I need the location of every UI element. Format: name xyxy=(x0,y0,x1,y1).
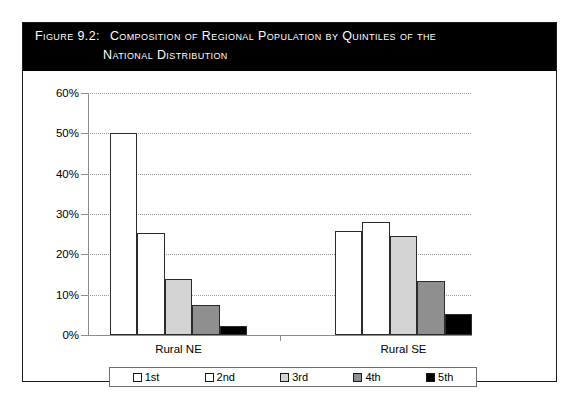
gridline xyxy=(88,133,471,134)
bar-rural-se-4th xyxy=(417,281,444,335)
y-axis-tick xyxy=(81,295,88,296)
bar-rural-ne-3rd xyxy=(165,279,192,335)
legend-label: 3rd xyxy=(292,371,308,383)
legend-item-3rd: 3rd xyxy=(280,371,308,383)
legend-item-1st: 1st xyxy=(133,371,160,383)
y-axis-tick xyxy=(81,335,88,336)
gridline xyxy=(88,93,471,94)
legend-swatch-4th xyxy=(353,373,362,382)
legend-swatch-3rd xyxy=(280,373,289,382)
y-axis-tick xyxy=(81,174,88,175)
legend-label: 4th xyxy=(365,371,380,383)
legend-swatch-1st xyxy=(133,373,142,382)
legend-label: 1st xyxy=(145,371,160,383)
figure-number-label: Figure 9.2: xyxy=(35,29,100,43)
bar-rural-ne-1st xyxy=(110,133,137,335)
plot-area xyxy=(88,93,471,335)
x-axis-label-rural-se: Rural SE xyxy=(380,343,426,355)
y-axis-tick-label: 0% xyxy=(31,329,79,341)
y-axis-tick xyxy=(81,133,88,134)
legend-label: 5th xyxy=(438,371,453,383)
legend-label: 2nd xyxy=(217,371,235,383)
bar-rural-ne-2nd xyxy=(137,233,164,335)
x-axis-tick xyxy=(280,335,281,341)
legend-item-5th: 5th xyxy=(426,371,453,383)
x-axis-label-rural-ne: Rural NE xyxy=(155,343,202,355)
y-axis-tick-label: 60% xyxy=(31,87,79,99)
bar-rural-se-1st xyxy=(335,231,362,335)
chart-plot-container: 0%10%20%30%40%50%60% Rural NERural SE 1s… xyxy=(23,71,556,383)
y-axis-tick xyxy=(81,93,88,94)
bar-rural-se-2nd xyxy=(362,222,389,335)
bar-rural-ne-5th xyxy=(220,326,247,335)
figure-title-text-line-2: National Distribution xyxy=(103,48,228,62)
legend-item-4th: 4th xyxy=(353,371,380,383)
y-axis-tick xyxy=(81,214,88,215)
figure-frame: Figure 9.2: Composition of Regional Popu… xyxy=(22,22,557,382)
figure-title-bar: Figure 9.2: Composition of Regional Popu… xyxy=(23,23,556,71)
y-axis-tick-label: 30% xyxy=(31,208,79,220)
y-axis-labels: 0%10%20%30%40%50%60% xyxy=(23,71,79,383)
legend-swatch-2nd xyxy=(205,373,214,382)
y-axis-tick-label: 50% xyxy=(31,127,79,139)
chart-legend: 1st2nd3rd4th5th xyxy=(109,367,477,387)
title-line-1: Figure 9.2: Composition of Regional Popu… xyxy=(35,29,546,43)
bar-rural-se-5th xyxy=(445,314,472,335)
y-axis-tick-label: 20% xyxy=(31,248,79,260)
title-line-2: National Distribution xyxy=(35,45,546,63)
y-axis-tick-label: 40% xyxy=(31,168,79,180)
bar-rural-se-3rd xyxy=(390,236,417,335)
y-axis-tick-label: 10% xyxy=(31,289,79,301)
figure-title-text-line-1: Composition of Regional Population by Qu… xyxy=(110,29,436,43)
gridline xyxy=(88,214,471,215)
legend-item-2nd: 2nd xyxy=(205,371,235,383)
gridline xyxy=(88,174,471,175)
legend-swatch-5th xyxy=(426,373,435,382)
y-axis-tick xyxy=(81,254,88,255)
bar-rural-ne-4th xyxy=(192,305,219,335)
